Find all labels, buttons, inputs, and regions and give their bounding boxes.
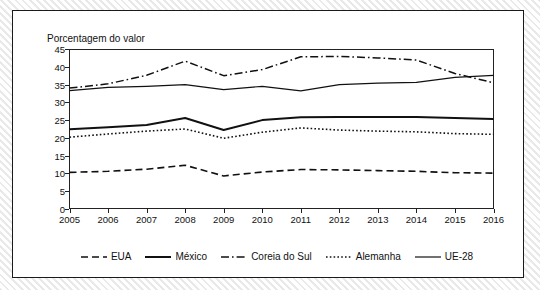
legend-swatch <box>415 252 441 262</box>
legend-label: EUA <box>111 251 132 262</box>
y-tick-mark <box>65 49 69 50</box>
series-line <box>70 56 494 88</box>
x-tick-mark <box>70 209 71 213</box>
x-tick-label: 2011 <box>291 214 311 225</box>
series-line <box>70 117 494 130</box>
x-tick-label: 2015 <box>444 214 465 225</box>
x-tick-mark <box>301 209 302 213</box>
legend-swatch <box>326 252 352 262</box>
y-tick-mark <box>65 156 69 157</box>
y-tick-label: 45 <box>54 44 65 55</box>
y-tick-mark <box>65 191 69 192</box>
legend-swatch <box>221 252 247 262</box>
y-tick-label: 25 <box>54 115 65 126</box>
x-tick-label: 2008 <box>175 214 196 225</box>
x-tick-mark <box>339 209 340 213</box>
x-tick-label: 2013 <box>367 214 388 225</box>
x-tick-label: 2012 <box>329 214 350 225</box>
chart-card: Porcentagem do valor 051015202530354045 … <box>12 10 524 278</box>
y-tick-mark <box>65 120 69 121</box>
series-lines <box>69 49 494 209</box>
y-tick-mark <box>65 138 69 139</box>
chart-legend: EUAMéxicoCoreia do SulAlemanhaUE-28 <box>47 251 507 262</box>
legend-label: Coreia do Sul <box>251 251 312 262</box>
x-tick-mark <box>494 209 495 213</box>
x-tick-mark <box>378 209 379 213</box>
y-tick-mark <box>65 102 69 103</box>
legend-label: México <box>175 251 207 262</box>
legend-label: UE-28 <box>445 251 473 262</box>
y-tick-label: 20 <box>54 132 65 143</box>
y-tick-mark <box>65 67 69 68</box>
x-tick-label: 2010 <box>252 214 273 225</box>
legend-swatch <box>81 252 107 262</box>
y-tick-mark <box>65 209 69 210</box>
x-tick-label: 2007 <box>136 214 157 225</box>
x-tick-mark <box>185 209 186 213</box>
legend-item: México <box>145 251 207 262</box>
x-tick-label: 2016 <box>483 214 504 225</box>
y-tick-label: 30 <box>54 97 65 108</box>
legend-item: UE-28 <box>415 251 473 262</box>
series-line <box>70 165 494 176</box>
x-tick-label: 2005 <box>59 214 80 225</box>
plot-wrapper: 051015202530354045 200520062007200820092… <box>69 49 494 209</box>
x-tick-mark <box>416 209 417 213</box>
x-tick-mark <box>262 209 263 213</box>
y-tick-label: 10 <box>54 168 65 179</box>
y-tick-mark <box>65 173 69 174</box>
legend-item: Coreia do Sul <box>221 251 312 262</box>
legend-item: EUA <box>81 251 132 262</box>
series-line <box>70 128 494 138</box>
x-tick-label: 2014 <box>406 214 427 225</box>
y-tick-label: 35 <box>54 79 65 90</box>
legend-swatch <box>145 252 171 262</box>
x-tick-label: 2006 <box>97 214 118 225</box>
x-tick-mark <box>147 209 148 213</box>
x-tick-mark <box>108 209 109 213</box>
y-tick-mark <box>65 85 69 86</box>
y-tick-label: 15 <box>54 150 65 161</box>
y-axis-title: Porcentagem do valor <box>47 33 145 44</box>
y-tick-label: 40 <box>54 61 65 72</box>
chart-area: Porcentagem do valor 051015202530354045 … <box>47 33 499 237</box>
legend-label: Alemanha <box>356 251 401 262</box>
x-tick-label: 2009 <box>213 214 234 225</box>
legend-item: Alemanha <box>326 251 401 262</box>
page-background: Porcentagem do valor 051015202530354045 … <box>0 0 540 290</box>
x-tick-mark <box>455 209 456 213</box>
x-tick-mark <box>224 209 225 213</box>
